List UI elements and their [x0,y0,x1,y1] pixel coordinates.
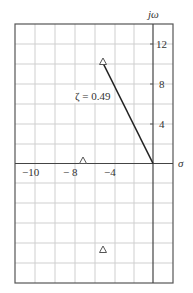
real-pole-triangle-icon [80,157,87,164]
zeta-annotation: ζ = 0.49 [75,90,111,103]
lower-pole-triangle-icon [100,246,107,253]
y-tick-12: 12 [156,38,167,50]
plot-border [15,24,173,283]
upper-pole-triangle-icon [100,58,107,65]
x-tick-minus-10: −10 [22,166,40,178]
x-axis-label: σ [178,157,184,169]
s-plane-diagram: jω σ 12 8 4 −10 − 8 −4 ζ = 0.49 [0,0,193,293]
x-tick-minus-4: −4 [104,166,116,178]
y-axis-label: jω [146,8,159,20]
grid [15,24,173,283]
damping-ratio-line [103,63,153,164]
y-tick-8: 8 [159,78,165,90]
y-tick-4: 4 [159,118,165,130]
x-tick-minus-8: − 8 [63,166,78,178]
